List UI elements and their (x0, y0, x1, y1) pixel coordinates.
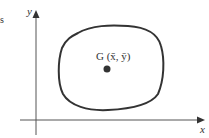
centroid-dot (104, 66, 111, 73)
edge-text-fragment: s (0, 14, 4, 25)
region-boundary (59, 26, 164, 111)
x-axis-label: x (199, 123, 205, 135)
x-axis: x (20, 117, 205, 136)
y-axis-label: y (26, 5, 32, 17)
centroid-label: G (x̄, ȳ) (96, 50, 131, 63)
y-axis-arrow-icon (33, 10, 40, 18)
centroid-diagram: s y x G (x̄, ȳ) (0, 0, 209, 138)
y-axis: y (26, 5, 40, 135)
